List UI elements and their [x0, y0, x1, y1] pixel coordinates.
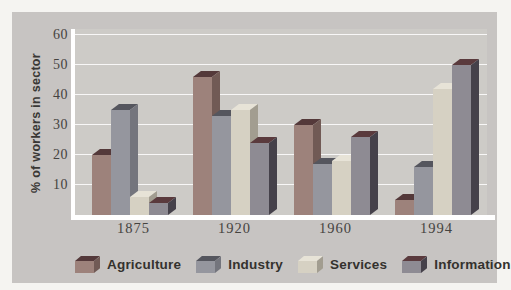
bar-industry-1920: [212, 116, 231, 215]
legend-label-information: Information: [434, 257, 510, 272]
bar-information-1960: [351, 137, 370, 215]
bar-information-1920: [250, 143, 269, 215]
bar-industry-1960: [313, 164, 332, 215]
cube-front: [75, 261, 94, 273]
cube-side: [421, 256, 427, 273]
x-tick-1875: 1875: [83, 220, 184, 238]
y-tick-50: 50: [38, 57, 68, 73]
face-front-agriculture-1960: [294, 125, 313, 215]
bar-agriculture-1875: [92, 155, 111, 215]
cube-front: [402, 261, 421, 273]
x-tick-1994: 1994: [386, 220, 487, 238]
plot-area: [75, 29, 487, 215]
bar-services-1960: [332, 161, 351, 215]
bar-cluster-1920: [193, 29, 277, 215]
face-front-information-1875: [149, 203, 168, 215]
y-axis-line: [71, 29, 75, 220]
y-tick-40: 40: [38, 87, 68, 103]
cube-side: [317, 256, 323, 273]
y-tick-10: 10: [38, 177, 68, 193]
face-front-services-1960: [332, 161, 351, 215]
bar-group-1920: [184, 29, 285, 215]
bar-agriculture-1960: [294, 125, 313, 215]
face-front-information-1960: [351, 137, 370, 215]
bar-services-1994: [433, 89, 452, 215]
legend-item-information: Information: [402, 255, 510, 273]
face-front-industry-1875: [111, 110, 130, 215]
x-tick-labels: 1875192019601994: [75, 220, 487, 238]
cube-side: [215, 256, 221, 273]
bar-agriculture-1920: [193, 77, 212, 215]
bar-cluster-1994: [395, 29, 479, 215]
cube-front: [196, 261, 215, 273]
bar-groups: [75, 29, 487, 215]
legend-item-agriculture: Agriculture: [75, 255, 181, 273]
face-side-information-1960: [370, 131, 378, 215]
face-front-industry-1960: [313, 164, 332, 215]
bar-cluster-1960: [294, 29, 378, 215]
cube-front: [298, 261, 317, 273]
bar-information-1994: [452, 65, 471, 215]
legend-cube-icon-information: [402, 255, 428, 273]
face-front-services-1994: [433, 89, 452, 215]
face-front-information-1994: [452, 65, 471, 215]
legend-cube-icon-services: [298, 255, 324, 273]
face-side-information-1994: [471, 59, 479, 215]
face-side-information-1920: [269, 137, 277, 215]
x-tick-1920: 1920: [184, 220, 285, 238]
bar-services-1875: [130, 197, 149, 215]
y-tick-60: 60: [38, 27, 68, 43]
legend-item-industry: Industry: [196, 255, 283, 273]
face-front-agriculture-1920: [193, 77, 212, 215]
legend: AgricultureIndustryServicesInformation: [75, 255, 511, 273]
face-front-industry-1994: [414, 167, 433, 215]
bar-information-1875: [149, 203, 168, 215]
legend-cube-icon-industry: [196, 255, 222, 273]
legend-item-services: Services: [298, 255, 387, 273]
face-front-services-1920: [231, 110, 250, 215]
x-tick-1960: 1960: [285, 220, 386, 238]
bar-agriculture-1994: [395, 200, 414, 215]
cube-side: [94, 256, 100, 273]
bar-industry-1994: [414, 167, 433, 215]
bar-group-1960: [285, 29, 386, 215]
face-front-industry-1920: [212, 116, 231, 215]
bar-group-1994: [386, 29, 487, 215]
y-tick-20: 20: [38, 147, 68, 163]
face-front-agriculture-1994: [395, 200, 414, 215]
face-front-agriculture-1875: [92, 155, 111, 215]
y-tick-30: 30: [38, 117, 68, 133]
legend-label-agriculture: Agriculture: [107, 257, 181, 272]
bar-cluster-1875: [92, 29, 176, 215]
legend-label-industry: Industry: [228, 257, 283, 272]
bar-group-1875: [83, 29, 184, 215]
face-front-information-1920: [250, 143, 269, 215]
chart-panel: % of workers in sector 605040302010 1875…: [12, 12, 497, 283]
bar-services-1920: [231, 110, 250, 215]
face-front-services-1875: [130, 197, 149, 215]
bar-industry-1875: [111, 110, 130, 215]
legend-cube-icon-agriculture: [75, 255, 101, 273]
legend-label-services: Services: [330, 257, 387, 272]
